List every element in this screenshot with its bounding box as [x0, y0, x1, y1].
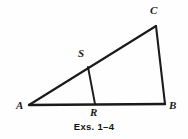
- geometry-figure: A B C R S Exs. 1–4: [0, 0, 188, 139]
- segment-CB: [156, 26, 165, 104]
- vertex-label-r: R: [90, 107, 97, 118]
- vertex-label-c: C: [150, 5, 157, 16]
- figure-caption: Exs. 1–4: [0, 121, 188, 132]
- segment-AB: [29, 104, 165, 105]
- vertex-label-b: B: [169, 100, 176, 111]
- vertex-label-s: S: [78, 48, 84, 59]
- segment-SR: [88, 67, 95, 104]
- triangle-diagram: [0, 0, 188, 139]
- vertex-label-a: A: [16, 100, 23, 111]
